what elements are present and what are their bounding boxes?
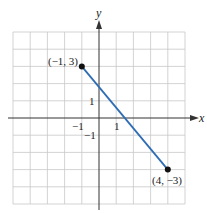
- point-p1: [79, 63, 85, 69]
- x-axis-label: x: [199, 111, 204, 126]
- tick-x-1: 1: [114, 120, 120, 132]
- point-label-p2: (4, −3): [152, 174, 182, 186]
- tick-y-1: 1: [89, 95, 95, 107]
- point-p2: [165, 167, 171, 173]
- tick-y-neg1: −1: [84, 129, 96, 141]
- point-label-p1: (−1, 3): [48, 55, 78, 67]
- y-axis-label: y: [96, 6, 101, 21]
- x-axis-arrow: [190, 115, 199, 121]
- tick-x-neg1: −1: [72, 120, 84, 132]
- y-axis-arrow: [96, 20, 102, 29]
